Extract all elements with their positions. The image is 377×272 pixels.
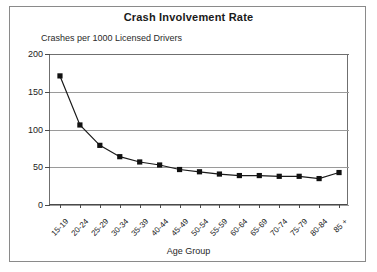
data-point-40-44 — [157, 162, 162, 167]
data-point-25-29 — [97, 143, 102, 148]
chart-page: Crash Involvement Rate Crashes per 1000 … — [0, 0, 377, 272]
data-point-60-64 — [237, 173, 242, 178]
data-point-75-79 — [297, 174, 302, 179]
y-tick-label-150: 150 — [28, 87, 43, 97]
data-point-15-19 — [57, 73, 62, 78]
data-point-20-24 — [77, 122, 82, 127]
y-tick-label-50: 50 — [33, 162, 43, 172]
y-tick-label-0: 0 — [38, 200, 43, 210]
data-series-crash-rate — [50, 54, 349, 205]
data-point-55-59 — [217, 171, 222, 176]
y-tick-0 — [45, 205, 50, 206]
data-point-50-54 — [197, 169, 202, 174]
data-point-35-39 — [137, 159, 142, 164]
data-point-80-84 — [317, 176, 322, 181]
data-point-65-69 — [257, 173, 262, 178]
chart-title: Crash Involvement Rate — [0, 11, 377, 23]
series-line — [60, 76, 339, 179]
data-point-85 + — [336, 170, 341, 175]
data-point-45-49 — [177, 167, 182, 172]
y-tick-label-200: 200 — [28, 49, 43, 59]
data-point-30-34 — [117, 154, 122, 159]
x-axis-title: Age Group — [0, 246, 377, 256]
plot-area: 050100150200 — [49, 54, 348, 205]
data-point-70-74 — [277, 174, 282, 179]
y-tick-label-100: 100 — [28, 125, 43, 135]
chart-subtitle: Crashes per 1000 Licensed Drivers — [41, 33, 182, 43]
